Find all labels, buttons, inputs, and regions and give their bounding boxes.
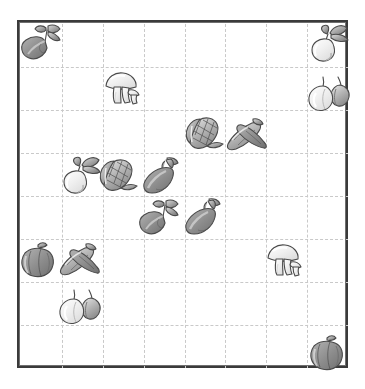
grid-cell-r5-c5[interactable] bbox=[225, 239, 266, 282]
grid-cell-r5-c4[interactable] bbox=[185, 239, 226, 282]
bell-pepper-icon[interactable] bbox=[306, 332, 350, 374]
grid-cell-r2-c6[interactable] bbox=[266, 110, 307, 153]
grid-cell-r7-c2[interactable] bbox=[103, 325, 144, 368]
peanuts-icon[interactable] bbox=[224, 114, 268, 156]
grid-cell-r6-c6[interactable] bbox=[266, 282, 307, 325]
turnip-with-greens-icon[interactable] bbox=[58, 155, 102, 197]
mushrooms-icon[interactable] bbox=[262, 240, 306, 282]
grid-cell-r3-c0[interactable] bbox=[21, 153, 62, 196]
grid-cell-r0-c2[interactable] bbox=[103, 24, 144, 67]
eggplant-with-leaves-icon[interactable] bbox=[18, 22, 66, 64]
grid-cell-r2-c7[interactable] bbox=[307, 110, 348, 153]
grid-cell-r0-c4[interactable] bbox=[185, 24, 226, 67]
grid-cell-r1-c0[interactable] bbox=[21, 67, 62, 110]
grid-cell-r4-c0[interactable] bbox=[21, 196, 62, 239]
grid-cell-r4-c1[interactable] bbox=[62, 196, 103, 239]
grid-cell-r0-c5[interactable] bbox=[225, 24, 266, 67]
grid-cell-r4-c6[interactable] bbox=[266, 196, 307, 239]
grid-cell-r7-c3[interactable] bbox=[144, 325, 185, 368]
eggplant-icon[interactable] bbox=[180, 196, 224, 238]
grid-cell-r4-c7[interactable] bbox=[307, 196, 348, 239]
grid-cell-r7-c4[interactable] bbox=[185, 325, 226, 368]
grid-cell-r6-c2[interactable] bbox=[103, 282, 144, 325]
eggplant-icon[interactable] bbox=[138, 155, 182, 197]
grid-cell-r3-c6[interactable] bbox=[266, 153, 307, 196]
corn-icon[interactable] bbox=[184, 113, 228, 155]
puzzle-stage bbox=[0, 0, 365, 389]
bell-pepper-icon[interactable] bbox=[17, 239, 61, 281]
grid-cell-r1-c3[interactable] bbox=[144, 67, 185, 110]
grid-cell-r2-c1[interactable] bbox=[62, 110, 103, 153]
grid-cell-r3-c7[interactable] bbox=[307, 153, 348, 196]
grid-cell-r0-c6[interactable] bbox=[266, 24, 307, 67]
grid-cell-r5-c3[interactable] bbox=[144, 239, 185, 282]
grid-cell-r1-c6[interactable] bbox=[266, 67, 307, 110]
grid-cell-r1-c1[interactable] bbox=[62, 67, 103, 110]
grid-cell-r3-c4[interactable] bbox=[185, 153, 226, 196]
grid-cell-r6-c7[interactable] bbox=[307, 282, 348, 325]
grid-cell-r2-c0[interactable] bbox=[21, 110, 62, 153]
turnip-with-greens-icon[interactable] bbox=[306, 23, 350, 65]
grid-cell-r7-c5[interactable] bbox=[225, 325, 266, 368]
grid-cell-r0-c1[interactable] bbox=[62, 24, 103, 67]
onions-icon[interactable] bbox=[58, 285, 102, 325]
onions-icon[interactable] bbox=[307, 72, 351, 112]
grid-cell-r6-c4[interactable] bbox=[185, 282, 226, 325]
grid-cell-r6-c0[interactable] bbox=[21, 282, 62, 325]
grid-cell-r0-c3[interactable] bbox=[144, 24, 185, 67]
grid-cell-r7-c6[interactable] bbox=[266, 325, 307, 368]
grid-cell-r7-c1[interactable] bbox=[62, 325, 103, 368]
grid-cell-r2-c2[interactable] bbox=[103, 110, 144, 153]
grid-cell-r5-c7[interactable] bbox=[307, 239, 348, 282]
eggplant-with-leaves-icon[interactable] bbox=[136, 197, 184, 239]
grid-cell-r2-c3[interactable] bbox=[144, 110, 185, 153]
grid-cell-r5-c2[interactable] bbox=[103, 239, 144, 282]
grid-cell-r1-c5[interactable] bbox=[225, 67, 266, 110]
grid-cell-r6-c3[interactable] bbox=[144, 282, 185, 325]
peanuts-icon[interactable] bbox=[57, 239, 101, 281]
mushrooms-icon[interactable] bbox=[100, 68, 144, 110]
grid-cell-r7-c0[interactable] bbox=[21, 325, 62, 368]
grid-cell-r3-c5[interactable] bbox=[225, 153, 266, 196]
grid-cell-r1-c4[interactable] bbox=[185, 67, 226, 110]
corn-icon[interactable] bbox=[98, 155, 142, 197]
grid-cell-r6-c5[interactable] bbox=[225, 282, 266, 325]
grid-cell-r4-c5[interactable] bbox=[225, 196, 266, 239]
